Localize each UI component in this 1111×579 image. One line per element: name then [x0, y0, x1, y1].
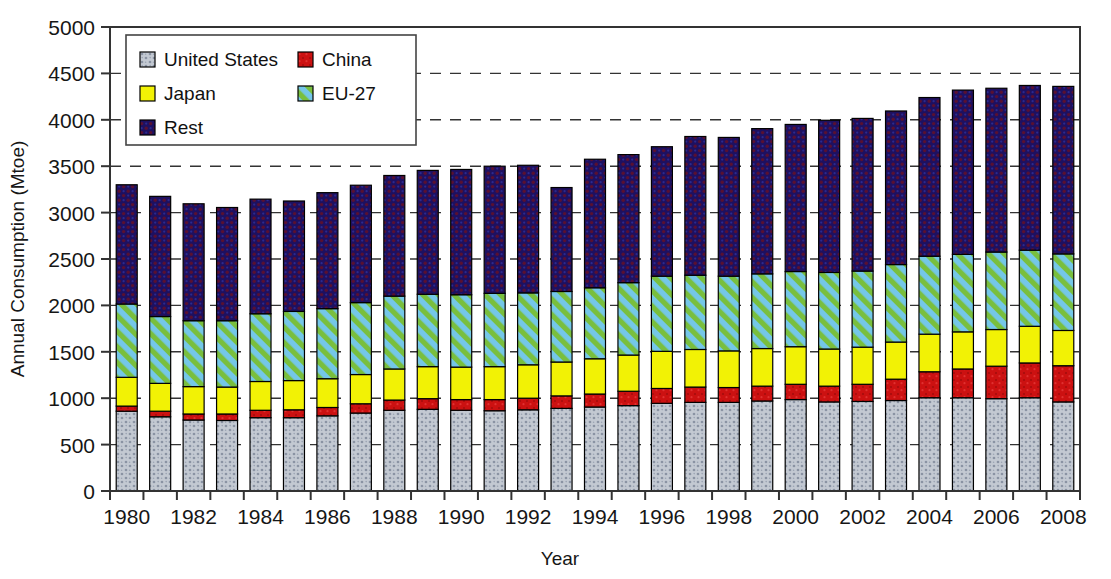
- segment-china: [518, 398, 539, 410]
- segment-china: [819, 386, 840, 402]
- bar-1987[interactable]: [350, 185, 371, 491]
- bar-1995[interactable]: [618, 155, 639, 491]
- segment-eu-27: [752, 274, 773, 349]
- y-tick-label: 2000: [48, 294, 95, 317]
- bar-2006[interactable]: [986, 88, 1007, 491]
- segment-rest: [217, 208, 238, 321]
- bar-1998[interactable]: [718, 137, 739, 491]
- bar-1999[interactable]: [752, 129, 773, 491]
- segment-united-states: [250, 418, 271, 491]
- segment-japan: [986, 330, 1007, 367]
- x-tick-label: 1990: [438, 505, 485, 528]
- segment-united-states: [350, 413, 371, 491]
- segment-united-states: [283, 418, 304, 491]
- bar-1996[interactable]: [651, 147, 672, 491]
- segment-japan: [1053, 330, 1074, 365]
- x-tick-label: 1982: [170, 505, 217, 528]
- bar-1989[interactable]: [417, 170, 438, 491]
- segment-china: [183, 414, 204, 420]
- bar-1992[interactable]: [518, 165, 539, 491]
- segment-eu-27: [150, 317, 171, 384]
- segment-eu-27: [350, 303, 371, 375]
- segment-eu-27: [250, 314, 271, 382]
- x-tick-label: 2004: [906, 505, 953, 528]
- bar-1980[interactable]: [116, 185, 137, 491]
- bar-2002[interactable]: [852, 118, 873, 491]
- segment-eu-27: [952, 254, 973, 331]
- segment-united-states: [451, 410, 472, 491]
- legend-item-label: Japan: [164, 83, 216, 104]
- bar-1986[interactable]: [317, 193, 338, 491]
- segment-eu-27: [785, 272, 806, 347]
- segment-eu-27: [718, 276, 739, 351]
- segment-rest: [718, 137, 739, 276]
- segment-japan: [417, 367, 438, 399]
- legend-item-eu-27[interactable]: EU-27: [298, 83, 376, 104]
- segment-eu-27: [183, 321, 204, 387]
- segment-united-states: [651, 403, 672, 491]
- segment-japan: [484, 367, 505, 400]
- segment-china: [1019, 363, 1040, 398]
- y-tick-label: 500: [60, 434, 95, 457]
- segment-china: [651, 388, 672, 403]
- x-tick-label: 1996: [639, 505, 686, 528]
- segment-japan: [718, 351, 739, 388]
- segment-china: [384, 400, 405, 410]
- segment-rest: [952, 90, 973, 254]
- bar-1988[interactable]: [384, 175, 405, 491]
- bar-2004[interactable]: [919, 98, 940, 491]
- segment-rest: [1019, 85, 1040, 250]
- segment-rest: [785, 124, 806, 271]
- segment-rest: [585, 159, 606, 288]
- segment-japan: [1019, 326, 1040, 363]
- bar-2000[interactable]: [785, 124, 806, 491]
- segment-china: [986, 366, 1007, 398]
- legend-item-china[interactable]: China: [298, 49, 372, 70]
- bar-1991[interactable]: [484, 166, 505, 491]
- bar-2007[interactable]: [1019, 85, 1040, 491]
- bars-group: [116, 85, 1074, 491]
- bar-1981[interactable]: [150, 196, 171, 491]
- segment-united-states: [986, 399, 1007, 491]
- segment-china: [217, 414, 238, 421]
- bar-1983[interactable]: [217, 208, 238, 492]
- bar-1994[interactable]: [585, 159, 606, 491]
- segment-rest: [484, 166, 505, 293]
- segment-united-states: [1019, 398, 1040, 491]
- segment-japan: [919, 334, 940, 372]
- legend-item-label: EU-27: [322, 83, 376, 104]
- x-tick-label: 2006: [973, 505, 1020, 528]
- bar-2003[interactable]: [886, 111, 907, 491]
- segment-united-states: [785, 400, 806, 491]
- legend-item-japan[interactable]: Japan: [140, 83, 216, 104]
- bar-2005[interactable]: [952, 90, 973, 491]
- legend-item-rest[interactable]: Rest: [140, 117, 204, 138]
- segment-united-states: [852, 401, 873, 491]
- segment-rest: [1053, 86, 1074, 254]
- bar-1982[interactable]: [183, 204, 204, 491]
- bar-1985[interactable]: [283, 201, 304, 491]
- segment-rest: [116, 185, 137, 304]
- x-tick-label: 1992: [505, 505, 552, 528]
- legend[interactable]: United StatesJapanRestChinaEU-27: [126, 35, 416, 145]
- segment-eu-27: [886, 265, 907, 342]
- segment-rest: [317, 193, 338, 309]
- segment-rest: [183, 204, 204, 321]
- segment-japan: [317, 379, 338, 408]
- segment-china: [886, 379, 907, 400]
- bar-2008[interactable]: [1053, 86, 1074, 491]
- segment-china: [952, 369, 973, 398]
- segment-rest: [283, 201, 304, 311]
- segment-china: [250, 410, 271, 417]
- segment-japan: [886, 342, 907, 379]
- segment-rest: [618, 155, 639, 283]
- bar-1997[interactable]: [685, 137, 706, 492]
- bar-1984[interactable]: [250, 199, 271, 491]
- segment-china: [484, 400, 505, 411]
- bar-1990[interactable]: [451, 169, 472, 491]
- bar-2001[interactable]: [819, 120, 840, 491]
- segment-rest: [651, 147, 672, 276]
- bar-1993[interactable]: [551, 188, 572, 491]
- segment-japan: [752, 349, 773, 387]
- segment-eu-27: [116, 304, 137, 377]
